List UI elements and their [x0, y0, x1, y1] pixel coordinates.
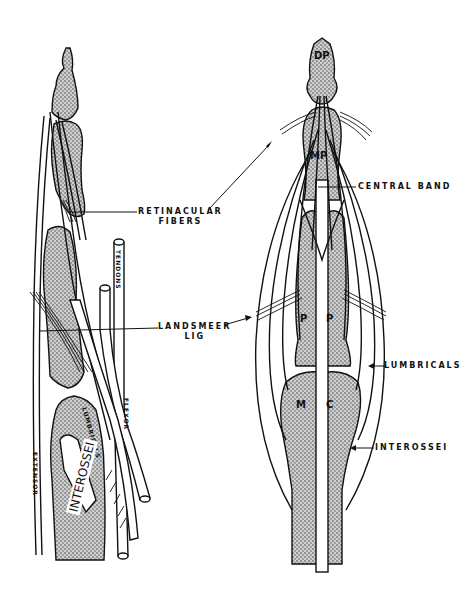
central-band: [316, 180, 328, 572]
right-finger-view: [256, 38, 386, 572]
landsmeer-line2: LIG: [158, 332, 231, 342]
bone-label-mp: MP: [310, 150, 327, 161]
right-distal-phalanx: [307, 38, 337, 104]
label-extensor: EXTENSOR: [32, 452, 39, 496]
bone-label-c: C: [326, 399, 333, 410]
retinacular-arrow-line: [208, 144, 270, 210]
left-finger-view: [30, 48, 158, 560]
bone-label-p-right: P: [326, 313, 333, 324]
retinacular-line2: FIBERS: [138, 217, 223, 227]
landsmeer-line1: LANDSMEER: [158, 322, 231, 332]
bone-label-m: M: [296, 399, 306, 410]
label-tendons: TENDONS: [115, 250, 122, 290]
lumbricals-arrowhead: [368, 363, 374, 369]
bone-label-dp: DP: [314, 50, 330, 61]
landsmeer-arrowhead: [245, 315, 252, 321]
bone-label-p-left: P: [300, 313, 307, 324]
label-landsmeer-lig: LANDSMEER LIG: [158, 322, 231, 342]
label-lumbricals-right: LUMBRICALS: [384, 361, 461, 371]
retinacular-line1: RETINACULAR: [138, 207, 223, 217]
label-interossei-right: INTEROSSEI: [375, 443, 448, 453]
label-retinacular-fibers: RETINACULAR FIBERS: [138, 207, 223, 227]
left-distal-phalanx: [52, 48, 78, 120]
label-flexor: FLEXOR: [123, 398, 130, 430]
label-central-band: CENTRAL BAND: [358, 182, 451, 192]
